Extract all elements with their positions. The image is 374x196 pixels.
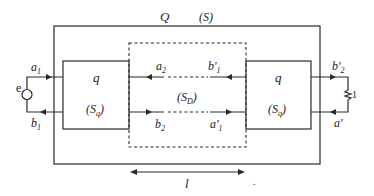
right-block-label: q xyxy=(275,70,282,85)
outer-system-box xyxy=(54,26,320,164)
source-label: e xyxy=(16,81,21,95)
right-block-sublabel: (Sq) xyxy=(268,102,286,118)
wave-a1-label: a1 xyxy=(31,60,41,76)
middle-dashed-box xyxy=(129,43,246,147)
arrow-left-icon xyxy=(130,169,137,175)
load-top-wire xyxy=(311,77,348,90)
outer-box-label-q: Q xyxy=(160,9,170,24)
arrow-left-icon xyxy=(40,109,46,115)
load-label: 1 xyxy=(352,89,357,100)
load-resistor-icon xyxy=(345,90,351,100)
arrow-right-icon xyxy=(146,109,152,115)
arrow-left-icon xyxy=(330,109,336,115)
outer-box-label-s: (S) xyxy=(199,10,213,24)
length-label: l xyxy=(185,176,189,191)
arrow-left-icon xyxy=(146,74,152,80)
stray-dot: . xyxy=(253,176,256,187)
wave-ap-label: a' xyxy=(334,116,343,130)
arrow-right-icon xyxy=(330,74,336,80)
left-block-sublabel: (Sq) xyxy=(86,102,104,118)
middle-box-sublabel: (SD) xyxy=(177,90,197,106)
wave-b1p-label: b'1 xyxy=(208,59,221,75)
wave-a2-label: a2 xyxy=(156,59,166,75)
arrow-left-icon xyxy=(226,74,232,80)
wave-b1-label: b1 xyxy=(31,116,41,132)
wave-b2-label: b2 xyxy=(155,117,165,133)
arrow-right-icon xyxy=(238,169,245,175)
source-icon xyxy=(22,90,32,100)
source-top-wire xyxy=(27,77,63,89)
arrow-right-icon xyxy=(226,109,232,115)
arrow-right-icon xyxy=(46,74,52,80)
wave-a1p-label: a'1 xyxy=(210,117,223,133)
load-bottom-wire xyxy=(311,100,348,112)
wave-b2p-label: b'2 xyxy=(332,59,345,75)
two-port-cascade-diagram: Q (S) q (Sq) q (Sq) (SD) e a1 b1 a2 b'1 … xyxy=(0,0,374,196)
left-block-label: q xyxy=(93,70,100,85)
